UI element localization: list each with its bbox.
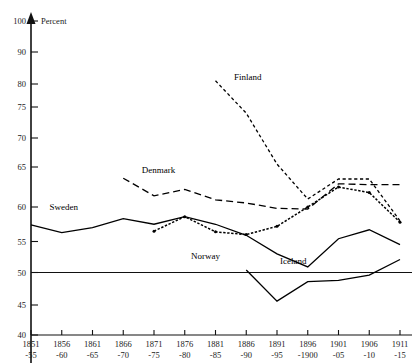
series-marker xyxy=(368,191,371,194)
x-tick-label-bottom: -1900 xyxy=(298,350,318,360)
x-tick-label-bottom: -80 xyxy=(179,350,190,360)
series-marker xyxy=(306,206,309,209)
y-tick-label: 65 xyxy=(18,162,27,172)
series-lines xyxy=(31,81,402,301)
series-marker xyxy=(276,225,279,228)
x-tick-label-bottom: -95 xyxy=(271,350,282,360)
x-tick-label-bottom: -15 xyxy=(394,350,405,360)
y-axis-title: Percent xyxy=(41,16,67,26)
y-tick-label: 90 xyxy=(18,47,27,57)
x-tick-label-top: 1866 xyxy=(115,339,132,349)
series-line-finland xyxy=(216,81,401,221)
x-tick-label-top: 1911 xyxy=(392,339,409,349)
x-tick-label-bottom: -90 xyxy=(241,350,252,360)
y-tick-label: 75 xyxy=(18,102,27,112)
chart-container: 40455055606570758090100 1851-551856-6018… xyxy=(0,0,413,363)
y-tick-label: 80 xyxy=(18,79,27,89)
x-tick-label-top: 1891 xyxy=(269,339,286,349)
series-marker xyxy=(399,221,402,224)
series-line-denmark xyxy=(123,178,400,209)
y-tick-label: 45 xyxy=(18,300,27,310)
x-tick-label-top: 1876 xyxy=(176,339,193,349)
series-marker xyxy=(337,186,340,189)
x-tick-label-bottom: -10 xyxy=(364,350,375,360)
series-marker xyxy=(183,215,186,218)
y-tick-label: 70 xyxy=(18,133,27,143)
x-tick-group xyxy=(31,330,400,335)
y-tick-group xyxy=(31,21,38,335)
y-tick-label: 100 xyxy=(13,16,26,26)
series-label-denmark: Denmark xyxy=(142,165,176,175)
series-marker xyxy=(245,233,248,236)
series-line-iceland xyxy=(246,259,400,301)
series-label-iceland: Iceland xyxy=(280,256,307,266)
x-tick-label-bottom: -05 xyxy=(333,350,344,360)
series-labels: SwedenDenmarkNorwayFinlandIceland xyxy=(49,72,307,266)
x-tick-label-top: 1881 xyxy=(207,339,224,349)
series-marker xyxy=(153,230,156,233)
x-tick-label-top: 1896 xyxy=(299,339,316,349)
y-tick-labels: 40455055606570758090100 xyxy=(13,16,26,340)
x-tick-label-bottom: -55 xyxy=(25,350,36,360)
x-tick-label-bottom: -75 xyxy=(148,350,159,360)
x-tick-label-top: 1906 xyxy=(361,339,378,349)
y-tick-label: 60 xyxy=(18,202,27,212)
x-tick-label-bottom: -60 xyxy=(56,350,67,360)
series-label-sweden: Sweden xyxy=(49,202,78,212)
x-tick-label-bottom: -85 xyxy=(210,350,221,360)
y-axis xyxy=(27,12,36,363)
series-label-finland: Finland xyxy=(234,72,262,82)
x-tick-labels: 1851-551856-601861-651866-701871-751876-… xyxy=(23,339,409,360)
y-tick-label: 50 xyxy=(18,268,27,278)
series-marker xyxy=(214,230,217,233)
x-tick-label-bottom: -65 xyxy=(87,350,98,360)
x-tick-label-top: 1901 xyxy=(330,339,347,349)
x-tick-label-bottom: -70 xyxy=(118,350,129,360)
x-tick-label-top: 1886 xyxy=(238,339,255,349)
y-tick-label: 55 xyxy=(18,237,27,247)
x-tick-label-top: 1861 xyxy=(84,339,101,349)
line-chart-svg: 40455055606570758090100 1851-551856-6018… xyxy=(0,0,413,363)
series-label-norway: Norway xyxy=(191,251,220,261)
x-tick-label-top: 1856 xyxy=(53,339,70,349)
x-tick-label-top: 1871 xyxy=(146,339,163,349)
x-tick-label-top: 1851 xyxy=(23,339,40,349)
